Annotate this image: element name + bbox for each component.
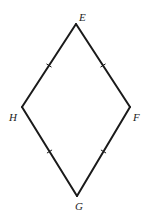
vertex-label-f: F	[132, 111, 140, 123]
vertex-label-h: H	[8, 111, 18, 123]
congruence-tick-marks	[46, 64, 106, 153]
rhombus-sides	[22, 24, 130, 196]
vertex-label-g: G	[75, 200, 83, 212]
rhombus-diagram: E F G H	[0, 0, 148, 215]
vertex-label-e: E	[78, 11, 86, 23]
vertex-labels: E F G H	[8, 11, 140, 212]
